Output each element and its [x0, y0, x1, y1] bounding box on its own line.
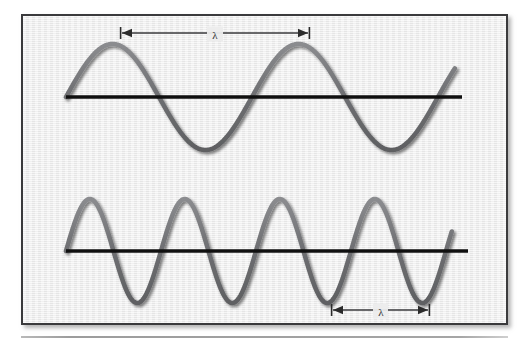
top-lambda-label: λ [212, 29, 218, 41]
bottom-arrow-head-right [418, 306, 428, 315]
top-arrow-head-right [298, 29, 308, 38]
bottom-wavelength-annotation: λ [332, 304, 430, 319]
figure-caption-rule [21, 336, 508, 338]
long-wavelength-wave-group [66, 44, 462, 150]
figure-page: λ λ [0, 0, 522, 344]
bottom-lambda-label: λ [378, 306, 384, 318]
wave-diagram-svg: λ λ [23, 16, 506, 323]
bottom-arrow-head-left [333, 306, 343, 315]
top-arrow-head-left [122, 29, 132, 38]
top-wavelength-annotation: λ [121, 27, 310, 42]
figure-panel: λ λ [21, 14, 508, 325]
short-wavelength-wave-group [66, 199, 468, 303]
